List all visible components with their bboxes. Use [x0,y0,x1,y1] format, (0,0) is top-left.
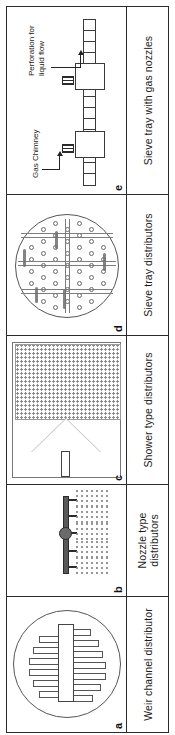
tray-perforation [83,129,96,130]
nozzle-cap [59,527,72,540]
panel-a: a Weir channel distributor [7,596,168,732]
panel-c: c Shower type distributors [7,335,168,484]
gas-chimney-leader-arrow [42,146,64,170]
panel-caption-c: Shower type distributors [127,336,168,484]
sieve-hole [53,294,58,299]
figure-rotation-wrapper: a Weir channel distributor [0,0,175,735]
downcomer-marker [35,287,38,303]
panel-d-artwork: d [7,195,127,335]
panel-a-artwork: a [7,597,127,732]
tray-perforation [83,118,96,119]
sieve-hole [89,252,94,257]
tray-perforation [83,173,96,174]
panel-b: b Nozzle type distributors [7,484,168,596]
tray-perforation [83,41,96,42]
panel-d: d Sieve tray distributors [7,194,168,335]
gas-chimney-hatch [62,76,74,85]
tray-perforation [83,162,96,163]
channel-line [18,261,116,262]
panel-b-artwork: b [7,485,127,596]
tray-perforation [83,96,96,97]
panel-caption-e: Sieve tray with gas nozzles [127,7,168,194]
sieve-hole [101,282,106,287]
panel-tag-a: a [113,723,124,729]
weir-channel-bar [58,624,74,702]
downcomer-marker [23,249,26,267]
spray-plume [75,506,109,524]
downcomer-marker [63,289,66,309]
shower-droplet-field [15,344,121,420]
sieve-hole [53,282,58,287]
gas-chimney-label: Gas Chimney [31,130,41,178]
channel-line [21,237,113,238]
sieve-hole [29,270,34,275]
panel-e-artwork: Gas Chimney Perforation for liquid flow … [7,7,127,194]
panel-tag-e: e [113,185,124,191]
sieve-hole [41,252,46,257]
panel-tag-b: b [113,586,124,593]
sieve-hole [53,222,58,227]
sieve-hole [77,270,82,275]
channel-line [18,265,116,266]
sieve-hole [29,246,34,251]
panel-c-artwork: c [7,336,127,484]
sieve-hole [53,306,58,311]
sieve-hole [89,228,94,233]
sieve-hole [41,276,46,281]
panel-tag-c: c [113,475,124,481]
panel-caption-a: Weir channel distributor [127,597,168,732]
perforation-leader-arrow [51,46,85,68]
tray-perforation [83,30,96,31]
panel-tag-d: d [113,325,124,332]
sieve-hole [77,306,82,311]
panel-caption-d: Sieve tray distributors [127,195,168,335]
distribution-cone-inner [32,419,100,452]
sieve-hole [41,300,46,305]
sieve-hole [89,240,94,245]
sieve-hole [41,228,46,233]
downcomer-marker [55,231,58,249]
spray-plume [75,557,109,575]
sieve-hole [77,222,82,227]
gas-chimney [75,131,105,158]
panel-e: Gas Chimney Perforation for liquid flow … [7,7,168,194]
panel-caption-b: Nozzle type distributors [127,485,168,596]
sieve-hole [77,294,82,299]
sieve-hole [101,246,106,251]
sieve-hole [41,240,46,245]
sieve-hole [29,282,34,287]
sieve-hole [77,282,82,287]
downcomer-marker [103,253,106,271]
tray-perforation [83,107,96,108]
sieve-hole [89,276,94,281]
distributor-types-table: a Weir channel distributor [6,6,169,733]
sieve-hole [53,270,58,275]
spray-plume [75,523,109,541]
sieve-hole [77,246,82,251]
figure-stage: a Weir channel distributor [0,0,175,735]
channel-line [21,233,113,234]
spray-plume [75,490,109,508]
channel-line [69,219,70,313]
spray-plume [75,541,109,559]
sieve-tray-section [83,19,96,186]
feed-pipe [61,451,70,477]
sieve-hole [89,300,94,305]
perforation-label: Perforation for liquid flow [27,25,46,76]
